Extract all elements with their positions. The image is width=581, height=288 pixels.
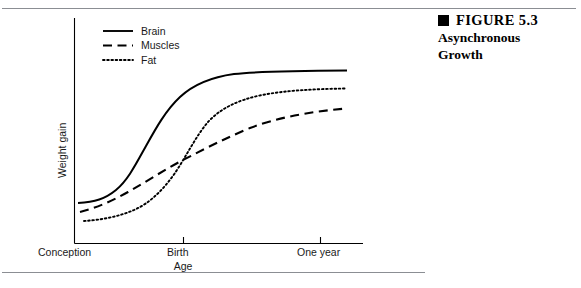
- square-bullet-icon: [438, 15, 449, 26]
- figure-caption-heading: FIGURE 5.3: [438, 12, 578, 29]
- x-axis-title: Age: [174, 260, 193, 272]
- chart-legend: Brain Muscles Fat: [103, 25, 180, 66]
- y-axis-title: Weight gain: [56, 123, 68, 178]
- legend-label-muscles: Muscles: [141, 39, 180, 51]
- figure-page: FIGURE 5.3 Asynchronous Growth Brain Mus…: [0, 0, 581, 288]
- figure-title-line-1: Asynchronous: [438, 30, 578, 46]
- x-tick-label-conception: Conception: [38, 246, 91, 258]
- figure-caption: FIGURE 5.3 Asynchronous Growth: [438, 12, 578, 63]
- x-tick-label-birth: Birth: [167, 246, 189, 258]
- x-tick-label-one-year: One year: [297, 246, 341, 258]
- chart-container: Brain Muscles Fat Weight gain Conception…: [0, 0, 400, 288]
- series-line-fat: [84, 89, 347, 222]
- asynchronous-growth-chart: Brain Muscles Fat Weight gain Conception…: [0, 0, 400, 288]
- figure-number-label: FIGURE 5.3: [456, 12, 538, 29]
- figure-title-line-2: Growth: [438, 47, 578, 63]
- series-line-muscles: [80, 109, 347, 213]
- legend-label-brain: Brain: [141, 25, 166, 37]
- legend-label-fat: Fat: [141, 54, 156, 66]
